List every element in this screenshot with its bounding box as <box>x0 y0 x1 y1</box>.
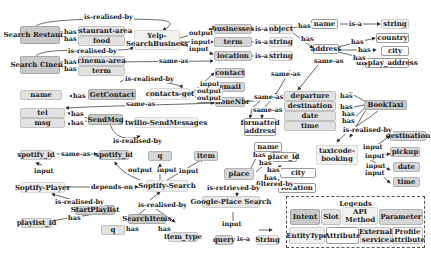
attr-country[interactable]: country <box>376 33 409 43</box>
api-contacts-get[interactable]: contacts-get <box>150 88 190 100</box>
api-twilio-sendmessages[interactable]: twilio-SendMessages <box>134 117 198 128</box>
intent-getcontact[interactable]: GetContact <box>88 89 136 100</box>
intent-searchitems[interactable]: SearchItems <box>128 214 166 224</box>
slot-time[interactable]: time <box>284 121 336 131</box>
attr-city-place[interactable]: city <box>280 168 316 178</box>
edge-label: same-as <box>60 151 91 158</box>
edge-label: has <box>63 36 78 43</box>
edge-label: input <box>156 167 177 174</box>
api-soptify-player[interactable]: Soptify-Player <box>20 182 65 193</box>
intent-search-cinema[interactable]: Search Cinema <box>20 56 60 74</box>
edge-label: input <box>221 221 242 228</box>
edge-label: same-as <box>158 58 189 65</box>
slot-item-type[interactable]: item_type <box>168 232 198 242</box>
edge-label: input <box>33 168 54 175</box>
intent-sendmsg[interactable]: SendMsg <box>88 114 123 125</box>
edge-label: same-as <box>270 71 301 78</box>
attr-address[interactable]: address <box>313 44 339 54</box>
edge-label: is-a <box>254 39 269 46</box>
legend-external-service: External service <box>360 227 391 244</box>
slot-restaurant-area[interactable]: restaurant-area <box>78 26 125 36</box>
edge-label: has <box>70 120 85 127</box>
param-date[interactable]: date <box>393 162 420 172</box>
param-item[interactable]: item <box>194 151 218 161</box>
entity-string[interactable]: String <box>256 235 279 245</box>
entity-object[interactable]: object <box>269 24 293 34</box>
api-soptify-search[interactable]: Soptify-Search <box>146 180 188 192</box>
attr-display-address[interactable]: display_address <box>365 58 409 68</box>
legend-slot: Slot <box>321 209 341 225</box>
api-yelp-searchbusiness[interactable]: Yelp-SearchBusiness <box>134 30 180 50</box>
attr-formatted-address[interactable]: formatted address <box>244 118 276 136</box>
param-query[interactable]: query <box>215 235 233 245</box>
slot-departure[interactable]: departure <box>284 91 336 101</box>
attr-name-top[interactable]: name <box>311 19 338 29</box>
edge-label: has <box>252 152 267 159</box>
edge-label: is-realised-by <box>137 202 188 209</box>
edge-label: has <box>341 118 356 125</box>
edge-label: output <box>188 30 214 37</box>
param-destination[interactable]: destination <box>390 131 426 141</box>
edge-label: is-realised-by <box>124 76 175 83</box>
intent-booktaxi[interactable]: BookTaxi <box>364 100 407 110</box>
ext-google-place-search[interactable]: Google-Place Search <box>202 196 260 208</box>
edge-label: is-realised-by <box>112 138 163 145</box>
param-time[interactable]: time <box>393 177 420 187</box>
slot-playlist-id[interactable]: playlist_id <box>21 218 52 228</box>
attr-city-top[interactable]: city <box>381 46 409 56</box>
slot-cinema-area[interactable]: cinema-area <box>78 56 125 66</box>
intent-search-restaurant[interactable]: Search Restaurant <box>20 26 60 44</box>
edge-label: is-a <box>348 21 363 28</box>
legend: Legends Intent Slot API Method Parameter… <box>286 196 425 248</box>
param-location[interactable]: location <box>214 51 252 61</box>
edge-label: has <box>266 167 281 174</box>
edge-label: output <box>127 167 153 174</box>
slot-spotify-id[interactable]: spotify_id <box>20 150 52 160</box>
legend-parameter: Parameter <box>379 209 423 225</box>
edge-label: input <box>188 46 209 53</box>
slot-name[interactable]: name <box>20 90 62 100</box>
edge-label: has <box>339 93 354 100</box>
entity-string-1[interactable]: string <box>269 37 293 47</box>
edge-label: output <box>196 95 222 102</box>
entity-string-top[interactable]: string <box>381 19 409 29</box>
legend-profile-attribute: Profile attribute <box>392 227 423 244</box>
slot-msg[interactable]: msg <box>20 118 65 128</box>
attr-place-id[interactable]: place_id <box>270 152 297 162</box>
edge-label: has <box>157 226 172 233</box>
edge-label: is-realised-by <box>342 127 393 134</box>
edge-label: has <box>300 36 315 43</box>
edge-label: is-realised-by <box>54 199 105 206</box>
legend-api-method: API Method <box>342 207 378 225</box>
edge-label: has <box>63 66 78 73</box>
legend-entitytype: EntityType <box>289 227 325 244</box>
slot-tel[interactable]: tel <box>20 108 65 118</box>
edge-label: depends-on <box>90 184 134 191</box>
slot-q[interactable]: q <box>101 225 125 235</box>
param-contact[interactable]: contact <box>215 68 245 78</box>
api-taxicode-booking[interactable]: taxicode-booking <box>316 145 358 165</box>
edge-label: same-as <box>253 94 284 101</box>
edge-label: input <box>364 170 385 177</box>
edge-label: has <box>67 215 82 222</box>
param-place[interactable]: place <box>224 168 254 180</box>
param-term[interactable]: term <box>214 37 252 47</box>
edge-label: filtered-by <box>255 181 294 188</box>
edge-label: is-realised-by <box>83 14 134 21</box>
param-spotify-id[interactable]: spotify_id <box>99 150 129 160</box>
param-pickup[interactable]: pickup <box>390 147 420 157</box>
edge-label: has <box>70 111 85 118</box>
param-businesses[interactable]: businesses <box>214 24 252 34</box>
edge-label: same-as <box>125 101 156 108</box>
slot-food[interactable]: food <box>78 36 125 46</box>
slot-destination[interactable]: destination <box>284 101 336 111</box>
intent-startplaylist[interactable]: StartPlaylist <box>75 205 115 215</box>
slot-term[interactable]: term <box>78 66 125 76</box>
edge-label: is-a <box>254 53 269 60</box>
entity-string-2[interactable]: string <box>269 51 293 61</box>
edge-label: input <box>362 144 383 151</box>
param-q[interactable]: q <box>148 151 172 161</box>
slot-date[interactable]: date <box>284 111 336 121</box>
edge-label: has <box>352 55 367 62</box>
edge-label: is-realised-by <box>67 48 118 55</box>
